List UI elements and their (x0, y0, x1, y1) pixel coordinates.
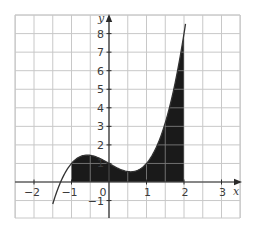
y-tick-label: 3 (97, 120, 104, 133)
chart: −2−10123−112345678 x y (0, 0, 253, 227)
grid (15, 15, 240, 218)
x-tick-label: 2 (182, 186, 189, 199)
x-tick-label: −1 (61, 186, 77, 199)
x-axis-label: x (233, 185, 240, 198)
x-tick-label: 1 (144, 186, 151, 199)
axes (15, 14, 242, 218)
y-tick-label: 5 (97, 83, 104, 96)
x-tick-label: −2 (24, 186, 40, 199)
y-tick-label: 8 (97, 28, 104, 41)
y-axis-label: y (97, 12, 105, 25)
y-tick-label: −1 (88, 195, 104, 208)
y-tick-label: 4 (97, 102, 104, 115)
y-tick-label: 2 (97, 139, 104, 152)
x-tick-label: 3 (219, 186, 226, 199)
y-tick-label: 6 (97, 65, 104, 78)
y-tick-label: 1 (97, 157, 104, 170)
y-tick-label: 7 (97, 46, 104, 59)
